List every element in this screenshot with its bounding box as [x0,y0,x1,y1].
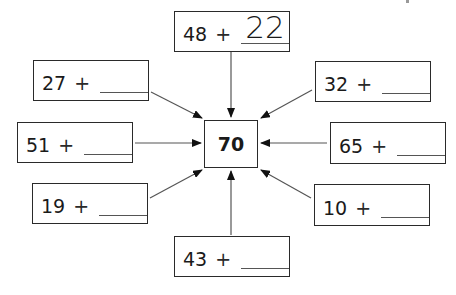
addend: 19 [41,197,65,216]
addend: 32 [324,75,348,94]
answer-blank[interactable] [382,73,430,94]
problem-lower-right: 10 + [314,184,430,226]
addend: 65 [339,137,363,156]
answer-blank[interactable] [84,134,132,155]
plus-sign: + [371,137,387,156]
arrow-upper-left [151,92,202,118]
addend: 51 [26,136,50,155]
problem-lower-left: 19 + [32,183,148,224]
plus-sign: + [74,74,90,93]
target-value: 70 [218,133,244,155]
addend: 10 [323,199,347,218]
plus-sign: + [58,136,74,155]
answer-blank[interactable] [99,195,147,216]
plus-sign: + [215,250,231,269]
addend: 43 [183,250,207,269]
target-box: 70 [204,120,258,168]
arrow-lower-right [261,170,311,198]
plus-sign: + [356,75,372,94]
answer-blank[interactable]: 22 [241,23,289,44]
answer-blank[interactable] [381,197,429,218]
problem-right: 65 + [330,122,446,164]
problem-bottom: 43 + [174,236,290,277]
answer-blank[interactable] [100,72,148,93]
corner-mark [406,0,409,3]
answer-blank[interactable] [397,135,445,156]
arrow-lower-left [150,170,202,198]
problem-upper-right: 32 + [315,61,431,102]
answer-value: 22 [241,12,289,43]
plus-sign: + [355,199,371,218]
plus-sign: + [215,25,231,44]
answer-blank[interactable] [241,248,289,269]
problem-upper-left: 27 + [33,60,149,101]
plus-sign: + [73,197,89,216]
arrow-upper-right [261,90,312,118]
addend: 48 [183,25,207,44]
problem-left: 51 + [17,122,133,163]
addend: 27 [42,74,66,93]
problem-top: 48 + 22 [174,11,290,52]
